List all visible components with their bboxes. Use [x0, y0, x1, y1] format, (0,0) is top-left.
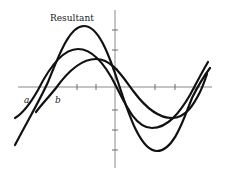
resultant-label: Resultant	[50, 14, 94, 23]
wave-a-label: a	[24, 96, 29, 105]
resultant-wave	[15, 26, 210, 151]
wave-superposition-diagram	[0, 0, 226, 173]
wave-b-label: b	[55, 96, 61, 105]
